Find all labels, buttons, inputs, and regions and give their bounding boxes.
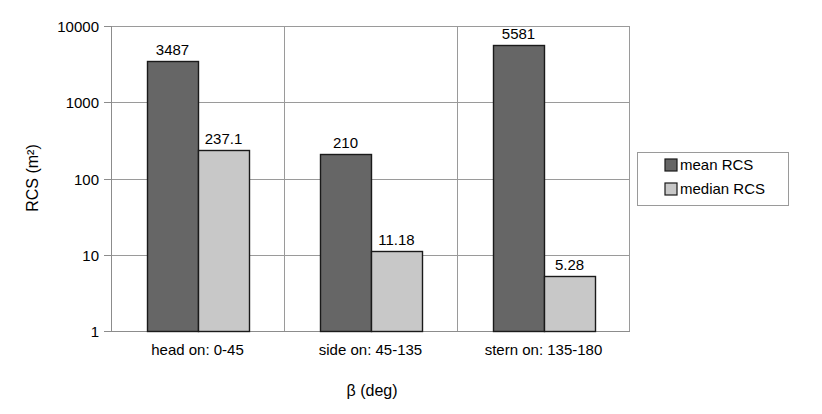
bar-value-label: 11.18 bbox=[378, 231, 414, 248]
bar-mean-rcs-0[interactable] bbox=[148, 62, 199, 332]
y-tick-label: 10000 bbox=[57, 18, 99, 35]
chart-legend[interactable]: mean RCSmedian RCS bbox=[638, 153, 789, 206]
x-category-label: head on: 0-45 bbox=[151, 341, 244, 358]
y-tick-label: 10 bbox=[82, 247, 99, 264]
x-category-label: stern on: 135-180 bbox=[485, 341, 603, 358]
legend-label-0[interactable]: mean RCS bbox=[680, 156, 753, 173]
bar-value-label: 5581 bbox=[502, 25, 535, 42]
category-labels-group: head on: 0-45side on: 45-135stern on: 13… bbox=[151, 341, 602, 358]
bar-value-label: 3487 bbox=[156, 41, 189, 58]
bar-value-label: 210 bbox=[333, 134, 358, 151]
x-category-label: side on: 45-135 bbox=[319, 341, 422, 358]
y-tick-label: 1000 bbox=[66, 94, 99, 111]
bar-mean-rcs-2[interactable] bbox=[494, 46, 545, 332]
legend-label-1[interactable]: median RCS bbox=[680, 180, 765, 197]
bar-value-label: 237.1 bbox=[205, 130, 243, 147]
chart-canvas: 110100100010000 3487237.121011.1855815.2… bbox=[0, 0, 822, 414]
bar-value-label: 5.28 bbox=[555, 256, 584, 273]
x-axis-title: β (deg) bbox=[347, 382, 398, 399]
bar-median-rcs-0[interactable] bbox=[199, 151, 250, 332]
y-tick-label: 100 bbox=[74, 171, 99, 188]
legend-swatch-1[interactable] bbox=[665, 183, 677, 195]
bar-median-rcs-2[interactable] bbox=[545, 277, 596, 332]
bar-mean-rcs-1[interactable] bbox=[321, 155, 372, 332]
y-axis-title: RCS (m²) bbox=[24, 144, 41, 212]
bar-median-rcs-1[interactable] bbox=[372, 252, 423, 332]
legend-swatch-0[interactable] bbox=[665, 159, 677, 171]
y-tick-label: 1 bbox=[91, 323, 99, 340]
rcs-bar-chart: 110100100010000 3487237.121011.1855815.2… bbox=[0, 0, 822, 414]
